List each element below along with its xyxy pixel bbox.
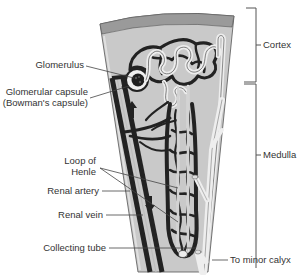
left-labels: Glomerulus Glomerular capsule (Bowman's … — [3, 59, 106, 253]
label-loop-line2: Henle — [71, 166, 96, 177]
label-collecting-tube: Collecting tube — [43, 242, 106, 253]
label-renal-artery: Renal artery — [47, 185, 99, 196]
right-labels: Cortex Medulla To minor calyx — [230, 39, 297, 265]
label-capsule-line1: Glomerular capsule — [6, 86, 88, 97]
label-glomerulus: Glomerulus — [35, 59, 84, 70]
label-cortex: Cortex — [263, 39, 291, 50]
glomerulus-ball — [132, 74, 145, 87]
label-renal-vein: Renal vein — [58, 209, 103, 220]
label-capsule-line2: (Bowman's capsule) — [3, 97, 88, 108]
label-minor-calyx: To minor calyx — [230, 254, 291, 265]
label-medulla: Medulla — [263, 149, 297, 160]
label-loop-line1: Loop of — [64, 155, 96, 166]
medulla-bracket — [244, 84, 261, 268]
cortex-bracket — [244, 8, 261, 82]
nephron-diagram: Glomerulus Glomerular capsule (Bowman's … — [0, 0, 299, 280]
